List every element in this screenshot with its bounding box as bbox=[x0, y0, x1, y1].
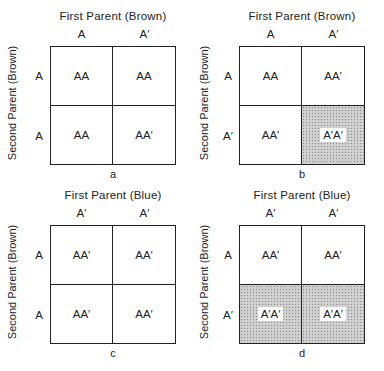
column-allele-header: A bbox=[239, 28, 302, 40]
row-allele-header: A bbox=[32, 249, 46, 261]
row-allele-header: A bbox=[221, 70, 235, 82]
genotype-cell: AA′ bbox=[51, 285, 113, 344]
genotype-cell: AA′ bbox=[51, 226, 113, 285]
genotype-cell: AA′ bbox=[113, 226, 175, 285]
genotype-label: AA′ bbox=[324, 70, 342, 82]
genotype-cell: AA′ bbox=[302, 226, 364, 285]
punnett-grid: AAAAAAAA′ bbox=[50, 46, 176, 165]
column-allele-header: A′ bbox=[302, 207, 365, 219]
first-parent-title: First Parent (Blue) bbox=[239, 189, 365, 201]
genotype-label: A′A′ bbox=[258, 307, 284, 321]
genotype-label: AA bbox=[74, 70, 89, 82]
punnett-panel-b: First Parent (Brown) A A′ Second Parent … bbox=[192, 0, 384, 185]
punnett-grid: AA′AA′A′A′A′A′ bbox=[239, 225, 365, 344]
column-allele-header: A′ bbox=[113, 28, 176, 40]
row-allele-header: A bbox=[221, 249, 235, 261]
second-parent-title: Second Parent (Brown) bbox=[198, 225, 210, 339]
genotype-cell: AA′ bbox=[240, 226, 302, 285]
genotype-label: AA′ bbox=[73, 249, 91, 261]
genotype-cell: AA bbox=[51, 47, 113, 106]
punnett-panel-a: First Parent (Brown) A A′ Second Parent … bbox=[0, 0, 192, 185]
genotype-label: AA′ bbox=[135, 129, 153, 141]
genotype-cell: AA′ bbox=[302, 47, 364, 106]
column-allele-header: A bbox=[50, 28, 113, 40]
genotype-cell: AA′ bbox=[113, 285, 175, 344]
punnett-panel-c: First Parent (Blue) A′ A′ Second Parent … bbox=[0, 179, 192, 364]
first-parent-title: First Parent (Brown) bbox=[50, 10, 176, 22]
genotype-label: A′A′ bbox=[320, 307, 346, 321]
genotype-label: AA bbox=[136, 70, 151, 82]
genotype-cell: A′A′ bbox=[240, 285, 302, 344]
column-allele-header: A′ bbox=[302, 28, 365, 40]
row-allele-header: A′ bbox=[221, 130, 235, 142]
genotype-cell: A′A′ bbox=[302, 106, 364, 165]
genotype-label: AA bbox=[74, 129, 89, 141]
first-parent-title: First Parent (Blue) bbox=[50, 189, 176, 201]
punnett-panel-d: First Parent (Blue) A′ A′ Second Parent … bbox=[192, 179, 384, 364]
panel-label: d bbox=[292, 347, 312, 359]
row-allele-header: A bbox=[32, 130, 46, 142]
genotype-cell: AA bbox=[51, 106, 113, 165]
genotype-label: AA′ bbox=[135, 249, 153, 261]
genotype-label: AA′ bbox=[73, 308, 91, 320]
first-parent-title: First Parent (Brown) bbox=[239, 10, 365, 22]
genotype-label: AA bbox=[263, 70, 278, 82]
genotype-cell: AA′ bbox=[113, 106, 175, 165]
column-allele-header: A′ bbox=[50, 207, 113, 219]
genotype-label: AA′ bbox=[135, 308, 153, 320]
panel-label: c bbox=[103, 347, 123, 359]
punnett-grid: AAAA′AA′A′A′ bbox=[239, 46, 365, 165]
genotype-cell: A′A′ bbox=[302, 285, 364, 344]
column-allele-header: A′ bbox=[113, 207, 176, 219]
row-allele-header: A bbox=[32, 70, 46, 82]
punnett-grid: AA′AA′AA′AA′ bbox=[50, 225, 176, 344]
row-allele-header: A bbox=[32, 309, 46, 321]
genotype-cell: AA bbox=[113, 47, 175, 106]
genotype-label: A′A′ bbox=[320, 128, 346, 142]
genotype-label: AA′ bbox=[262, 249, 280, 261]
genotype-label: AA′ bbox=[262, 129, 280, 141]
second-parent-title: Second Parent (Brown) bbox=[6, 225, 18, 339]
second-parent-title: Second Parent (Brown) bbox=[6, 46, 18, 160]
column-allele-header: A′ bbox=[239, 207, 302, 219]
genotype-cell: AA′ bbox=[240, 106, 302, 165]
row-allele-header: A′ bbox=[221, 309, 235, 321]
genotype-label: AA′ bbox=[324, 249, 342, 261]
second-parent-title: Second Parent (Brown) bbox=[198, 46, 210, 160]
genotype-cell: AA bbox=[240, 47, 302, 106]
